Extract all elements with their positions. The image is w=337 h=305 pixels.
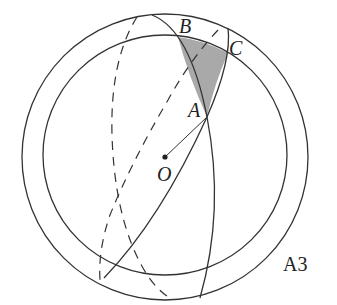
label-o: O [157, 164, 171, 184]
label-a: A [188, 100, 200, 120]
radius-oa [165, 117, 207, 157]
figure-tag: A3 [283, 254, 307, 274]
center-point-o [162, 154, 167, 159]
label-b: B [179, 16, 191, 36]
great-circle-ba-back [112, 17, 170, 298]
label-c: C [229, 38, 242, 58]
sphere-diagram: B C A O A3 [0, 0, 337, 305]
